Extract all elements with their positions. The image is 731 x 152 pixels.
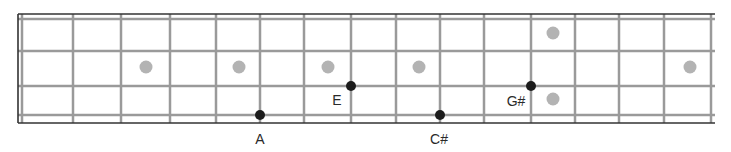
note-dot-a <box>255 110 265 120</box>
note-label-e: E <box>332 92 341 108</box>
note-dot-e <box>346 81 356 91</box>
string-lines <box>18 19 715 115</box>
note-dot-c-sharp <box>435 110 445 120</box>
note-label-c-sharp: C# <box>430 131 448 147</box>
inlay-dot-icon <box>140 61 153 74</box>
note-label-a: A <box>255 131 264 147</box>
inlay-dot-icon <box>322 61 335 74</box>
note-dot-g-sharp <box>526 81 536 91</box>
fretboard-border <box>18 14 715 123</box>
inlay-markers <box>140 27 697 106</box>
note-label-g-sharp: G# <box>507 93 526 109</box>
inlay-dot-icon <box>684 61 697 74</box>
fretboard-diagram <box>0 0 731 152</box>
inlay-dot-icon <box>413 61 426 74</box>
inlay-dot-icon <box>547 93 560 106</box>
inlay-dot-icon <box>233 61 246 74</box>
inlay-dot-icon <box>547 27 560 40</box>
fret-lines <box>22 14 711 123</box>
